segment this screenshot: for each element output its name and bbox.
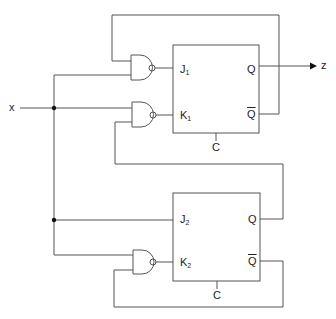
ff2-j-label: J2	[180, 214, 189, 226]
ff1-clock-label: C	[212, 142, 220, 153]
ff1-j-label: J1	[180, 64, 189, 76]
output-z-label: z	[321, 60, 327, 71]
ff2-q-label: Q	[248, 214, 257, 225]
circuit-wiring	[0, 0, 336, 319]
ff1-q-label: Q	[247, 64, 256, 75]
output-arrow-icon	[310, 63, 317, 70]
ff2-qbar-label: Q	[248, 256, 257, 267]
circuit-diagram: x z J1 K1 Q Q C J2 K2 Q Q C	[0, 0, 336, 319]
ff2-clock-label: C	[213, 290, 221, 301]
ff1-k-label: K1	[180, 110, 191, 122]
ff2-k-label: K2	[180, 257, 191, 269]
input-x-label: x	[9, 102, 15, 113]
ff1-qbar-label: Q	[247, 109, 256, 120]
nand-gate-3	[133, 250, 154, 274]
